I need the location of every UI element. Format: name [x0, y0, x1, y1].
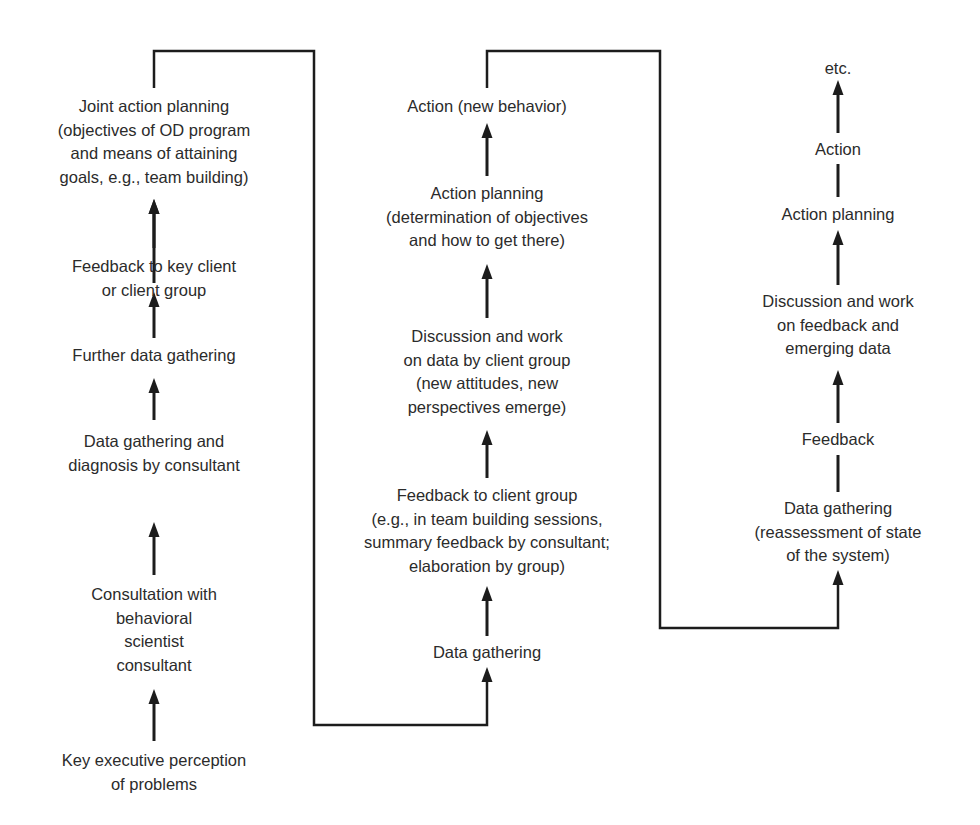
up-arrow-icon [833, 370, 844, 423]
node-text-line: Data gathering [755, 497, 922, 521]
node-text-line: Action planning [782, 203, 895, 227]
node-text-line: and how to get there) [386, 229, 588, 253]
node-text-line: (determination of objectives [386, 206, 588, 230]
node-text-line: Joint action planning [58, 95, 251, 119]
node-text-line: Data gathering [433, 641, 541, 665]
node-text-line: and means of attaining [58, 142, 251, 166]
node-data-gathering-diagnosis: Data gathering anddiagnosis by consultan… [68, 430, 240, 477]
node-text-line: (reassessment of state [755, 521, 922, 545]
node-text-line: of the system) [755, 544, 922, 568]
node-text-line: goals, e.g., team building) [58, 166, 251, 190]
node-text-line: consultant [91, 654, 217, 678]
arrowhead-icon [149, 378, 160, 393]
node-action-planning-middle: Action planning(determination of objecti… [386, 182, 588, 253]
up-arrow-icon [149, 199, 160, 248]
arrowhead-icon [149, 689, 160, 704]
up-arrow-icon [149, 522, 160, 575]
up-arrow-icon [833, 230, 844, 285]
arrowhead-icon [482, 123, 493, 138]
arrowhead-icon [482, 667, 493, 682]
node-consultation-behavioral-scientist: Consultation withbehavioralscientistcons… [91, 583, 217, 677]
arrowhead-icon [833, 370, 844, 385]
node-text-line: Action planning [386, 182, 588, 206]
arrowhead-icon [833, 230, 844, 245]
up-arrow-icon [149, 689, 160, 741]
node-text-line: of problems [62, 773, 246, 797]
arrowhead-icon [149, 522, 160, 537]
up-arrow-icon [149, 378, 160, 420]
node-text-line: Data gathering and [68, 430, 240, 454]
node-text-line: or client group [72, 279, 236, 303]
node-text-line: Consultation with [91, 583, 217, 607]
up-arrow-icon [482, 264, 493, 318]
node-text-line: Discussion and work [404, 325, 571, 349]
node-text-line: on feedback and [762, 314, 913, 338]
node-discussion-work-feedback: Discussion and workon feedback andemergi… [762, 290, 913, 361]
node-text-line: Further data gathering [72, 344, 235, 368]
node-text-line: (objectives of OD program [58, 119, 251, 143]
arrowhead-icon [482, 586, 493, 601]
node-text-line: Feedback to key client [72, 255, 236, 279]
node-further-data-gathering: Further data gathering [72, 344, 235, 368]
node-text-line: (new attitudes, new [404, 372, 571, 396]
arrowhead-icon [149, 199, 160, 214]
arrowhead-icon [833, 570, 844, 585]
node-feedback-key-client: Feedback to key clientor client group [72, 255, 236, 302]
node-text-line: scientist [91, 630, 217, 654]
node-feedback-right: Feedback [802, 428, 874, 452]
node-etc: etc. [825, 57, 852, 81]
node-text-line: etc. [825, 57, 852, 81]
node-text-line: Feedback to client group [364, 484, 610, 508]
node-text-line: summary feedback by consultant; [364, 531, 610, 555]
node-feedback-client-group: Feedback to client group(e.g., in team b… [364, 484, 610, 578]
arrowhead-icon [482, 430, 493, 445]
up-arrow-icon [482, 586, 493, 636]
node-text-line: Discussion and work [762, 290, 913, 314]
node-action-planning-right: Action planning [782, 203, 895, 227]
node-data-gathering-middle: Data gathering [433, 641, 541, 665]
node-text-line: behavioral [91, 607, 217, 631]
node-joint-action-planning: Joint action planning(objectives of OD p… [58, 95, 251, 189]
node-data-gathering-right: Data gathering(reassessment of stateof t… [755, 497, 922, 568]
node-text-line: diagnosis by consultant [68, 454, 240, 478]
node-text-line: Feedback [802, 428, 874, 452]
node-text-line: on data by client group [404, 349, 571, 373]
node-text-line: Action [815, 138, 861, 162]
node-text-line: elaboration by group) [364, 555, 610, 579]
node-action-right: Action [815, 138, 861, 162]
arrowhead-icon [833, 80, 844, 95]
node-text-line: perspectives emerge) [404, 396, 571, 420]
node-text-line: (e.g., in team building sessions, [364, 508, 610, 532]
up-arrow-icon [482, 123, 493, 176]
node-text-line: emerging data [762, 337, 913, 361]
node-key-executive-perception: Key executive perceptionof problems [62, 749, 246, 796]
up-arrow-icon [833, 80, 844, 133]
arrowhead-icon [482, 264, 493, 279]
node-discussion-work-data: Discussion and workon data by client gro… [404, 325, 571, 419]
up-arrow-icon [482, 430, 493, 478]
node-action-new-behavior: Action (new behavior) [407, 95, 567, 119]
node-text-line: Action (new behavior) [407, 95, 567, 119]
node-text-line: Key executive perception [62, 749, 246, 773]
